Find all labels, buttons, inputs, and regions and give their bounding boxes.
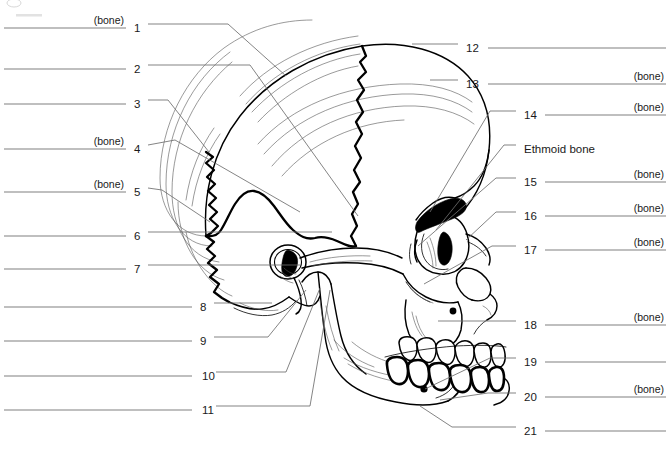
mastoid-process [289,296,320,306]
optic-region [438,232,452,265]
bone-hint-13: (bone) [634,70,664,82]
answer-row-14: (bone)14 [524,101,666,121]
answer-row-9: 9 [4,335,206,347]
label-number-13: 13 [466,78,479,90]
label-number-12: 12 [466,42,479,54]
vault-shading-lines [240,36,474,176]
leader-9 [214,290,306,337]
leader-10 [216,288,320,372]
answer-row-7: 7 [4,263,140,275]
answer-row-12: 12 [466,42,666,54]
answer-row-18: (bone)18 [524,311,666,331]
zygomatic-arch [300,248,402,258]
answer-row-11: 11 [4,404,214,416]
answer-row-16: (bone)16 [524,202,666,222]
label-number-9: 9 [200,335,206,347]
answer-row-6: 6 [4,230,140,242]
bone-hint-4: (bone) [94,135,124,147]
styloid-process [294,278,301,314]
answer-row-5: (bone)5 [4,178,140,198]
label-number-3: 3 [134,98,140,110]
label-number-8: 8 [200,301,206,313]
label-number-16: 16 [524,210,537,222]
left-label-column: (bone)123(bone)4(bone)567891011 [4,14,215,416]
worksheet-sheet: (bone)123(bone)4(bone)567891011 12(bone)… [0,0,670,453]
label-number-6: 6 [134,230,140,242]
label-number-2: 2 [134,63,140,75]
answer-row-2: 2 [4,63,140,75]
answer-row-17: (bone)17 [524,236,666,256]
label-number-17: 17 [524,244,537,256]
bone-hint-20: (bone) [634,383,664,395]
bone-hint-1: (bone) [94,14,124,26]
occipitomastoid-suture [206,236,229,302]
label-number-10: 10 [202,370,215,382]
bone-hint-5: (bone) [94,178,124,190]
leader-16 [466,212,516,240]
coronal-suture [351,46,366,246]
corner-artifact [7,0,42,17]
bone-hint-18: (bone) [634,311,664,323]
nasal-aperture [466,268,491,301]
label-number-5: 5 [134,186,140,198]
orbit-roof-shadow [416,198,467,232]
bone-hint-17: (bone) [634,236,664,248]
answer-row-20: (bone)20 [524,383,666,403]
bone-hint-14: (bone) [634,101,664,113]
label-number-19: 19 [524,356,537,368]
label-number-15: 15 [524,176,537,188]
leader-4 [148,140,300,212]
answer-row-3: 3 [4,98,140,110]
answer-row-8: 8 [4,301,206,313]
label-number-1: 1 [134,22,140,34]
leader-21 [420,406,516,427]
label-number-20: 20 [524,391,537,403]
infraorbital-foramen [450,308,457,315]
mandibular-condyle [302,272,331,284]
anterior-nasal-spine [487,294,497,320]
answer-row-21: 21 [524,425,666,437]
label-number-21: 21 [524,425,537,437]
answer-row-ethmoid-bone: Ethmoid bone [524,143,595,155]
answer-row-10: 10 [4,370,215,382]
label-number-7: 7 [134,263,140,275]
answer-row-1: (bone)1 [4,14,140,34]
label-number-4: 4 [134,143,141,155]
bone-hint-15: (bone) [634,168,664,180]
answer-row-15: (bone)15 [524,168,666,188]
bone-hint-16: (bone) [634,202,664,214]
leader-1 [148,24,286,76]
answer-row-13: (bone)13 [466,70,666,90]
label-text-ethmoid-bone: Ethmoid bone [524,143,595,155]
label-number-11: 11 [202,404,214,416]
external-acoustic-meatus [270,245,306,283]
label-number-18: 18 [524,319,537,331]
leader-11 [216,290,330,406]
squamous-suture [206,191,356,247]
answer-row-19: 19 [524,356,666,368]
label-number-14: 14 [524,109,537,121]
answer-row-4: (bone)4 [4,135,141,155]
